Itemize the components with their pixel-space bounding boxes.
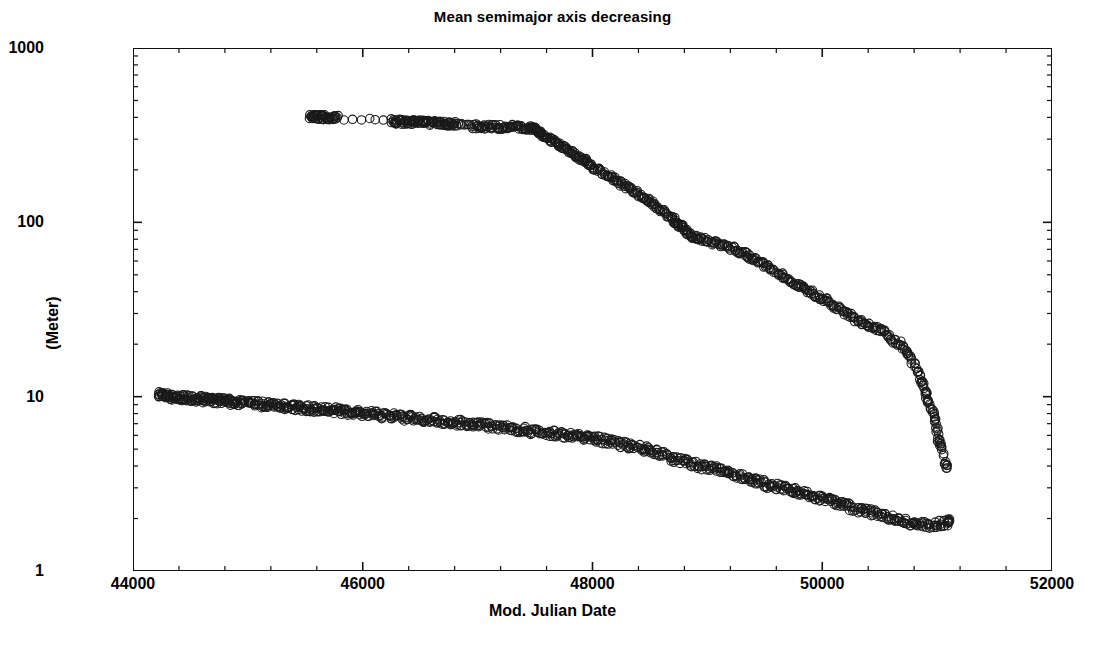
x-tick-label: 52000: [1030, 575, 1075, 593]
y-tick-label: 1000: [8, 39, 44, 57]
x-tick-label: 44000: [111, 575, 156, 593]
y-tick-label: 100: [17, 213, 44, 231]
y-tick-label: 10: [26, 388, 44, 406]
y-tick-label: 1: [35, 562, 44, 580]
x-axis-label: Mod. Julian Date: [0, 602, 1105, 620]
chart-title: Mean semimajor axis decreasing: [0, 8, 1105, 25]
plot-frame-border: [133, 48, 1052, 571]
x-tick-label: 46000: [341, 575, 386, 593]
plot-area: [133, 48, 1052, 571]
y-axis-label: (Meter): [44, 296, 62, 349]
x-tick-label: 50000: [800, 575, 845, 593]
x-tick-label: 48000: [570, 575, 615, 593]
chart-figure: Mean semimajor axis decreasing (Meter) M…: [0, 0, 1105, 646]
